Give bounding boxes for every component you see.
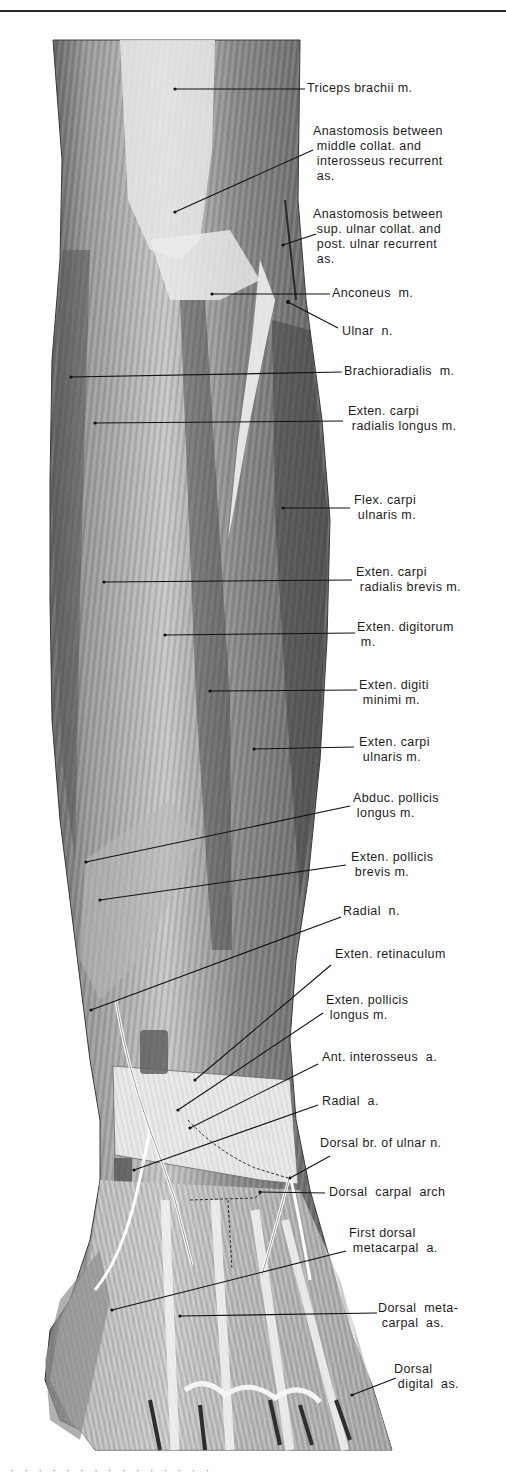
leader-dot: [176, 1108, 179, 1111]
label-radial-n: Radial n.: [343, 904, 400, 919]
leader-dot: [110, 1308, 113, 1311]
label-ant-interosseus: Ant. interosseus a.: [322, 1050, 437, 1065]
label-ext-digitorum: Exten. digitorum m.: [357, 620, 454, 650]
tendon-sheath: [114, 1158, 132, 1182]
label-ecu: Exten. carpi ulnaris m.: [359, 735, 430, 765]
leader-dot: [286, 300, 289, 303]
leader-dot: [258, 1190, 261, 1193]
leader-dot: [173, 210, 176, 213]
label-brachioradialis: Brachioradialis m.: [344, 364, 454, 379]
leader-dot: [102, 580, 105, 583]
label-ulnar-n: Ulnar n.: [342, 324, 393, 339]
leader-dot: [281, 506, 284, 509]
label-ext-digiti-minimi: Exten. digiti minimi m.: [359, 678, 429, 708]
label-apl: Abduc. pollicis longus m.: [353, 791, 439, 821]
leader-dot: [350, 1393, 353, 1396]
leader-dot: [69, 375, 72, 378]
label-dorsal-digital: Dorsal digital as.: [394, 1362, 459, 1392]
leader-dot: [288, 1176, 291, 1179]
label-dorsal-br-ulnar: Dorsal br. of ulnar n.: [320, 1136, 441, 1151]
label-fcu: Flex. carpi ulnaris m.: [354, 493, 416, 523]
label-epb: Exten. pollicis brevis m.: [351, 850, 433, 880]
label-anconeus: Anconeus m.: [332, 286, 413, 301]
label-dorsal-metacarpal: Dorsal meta- carpal as.: [378, 1301, 458, 1331]
leader-dot: [84, 860, 87, 863]
leader-dot: [173, 87, 176, 90]
leader-dot: [193, 1078, 196, 1081]
leader-dot: [98, 898, 101, 901]
leader-dot: [163, 633, 166, 636]
label-first-dorsal-metacarpal: First dorsal metacarpal a.: [349, 1226, 438, 1256]
label-ext-retinaculum: Exten. retinaculum: [335, 947, 446, 962]
leader-dot: [178, 1314, 181, 1317]
leader-dot: [281, 243, 284, 246]
label-anast-sup: Anastomosis between sup. ulnar collat. a…: [313, 207, 443, 267]
tendon-sheath: [140, 1030, 168, 1074]
label-anast-middle: Anastomosis between middle collat. and i…: [313, 124, 443, 184]
leader-dot: [210, 292, 213, 295]
label-ecrb: Exten. carpi radialis brevis m.: [356, 565, 461, 595]
leader-dot: [93, 421, 96, 424]
leader-dot: [188, 1126, 191, 1129]
leader-dot: [89, 1008, 92, 1011]
leader-dot: [252, 747, 255, 750]
label-radial-a: Radial a.: [322, 1094, 379, 1109]
label-triceps: Triceps brachii m.: [307, 81, 412, 96]
leader-dot: [208, 689, 211, 692]
cropped-caption-line: · · · · · · · · · · · · · · ·: [10, 1462, 500, 1476]
label-dorsal-carpal-arch: Dorsal carpal arch: [329, 1185, 445, 1200]
leader-dot: [132, 1168, 135, 1171]
label-epl: Exten. pollicis longus m.: [326, 993, 408, 1023]
label-ecrl: Exten. carpi radialis longus m.: [348, 404, 456, 434]
